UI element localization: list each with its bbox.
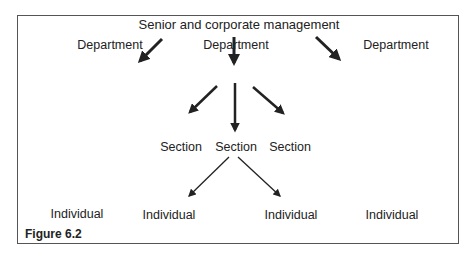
figure-caption: Figure 6.2	[25, 227, 82, 241]
node-section-middle: Section	[215, 140, 257, 154]
section-arrows	[189, 157, 280, 196]
node-department-left: Department	[77, 38, 142, 52]
dept-arrows	[190, 83, 283, 130]
node-senior-management: Senior and corporate management	[139, 18, 340, 32]
node-section-left: Section	[160, 140, 202, 154]
node-individual-1: Individual	[51, 207, 104, 221]
node-individual-4: Individual	[366, 208, 419, 222]
arrow-dept-to-section-right	[253, 87, 283, 113]
node-department-middle: Department	[203, 38, 268, 52]
node-department-right: Department	[363, 38, 428, 52]
arrow-section-to-individual-left	[189, 157, 229, 196]
arrow-root-to-dept-right	[316, 37, 339, 59]
arrow-section-to-individual-right	[238, 157, 280, 196]
arrow-dept-to-section-left	[190, 86, 217, 112]
node-individual-2: Individual	[143, 208, 196, 222]
arrow-root-to-dept-left	[140, 39, 162, 61]
node-individual-3: Individual	[265, 208, 318, 222]
node-section-right: Section	[269, 140, 311, 154]
